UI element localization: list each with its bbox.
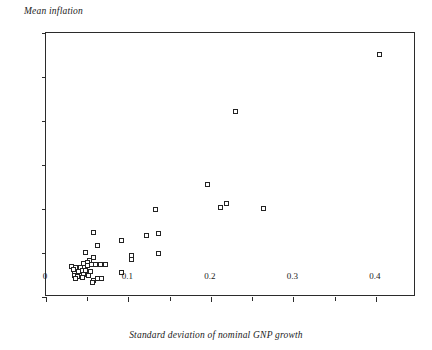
x-tick-label-0: 0 (30, 272, 60, 281)
y-tick-2 (42, 209, 46, 210)
data-point (98, 262, 103, 267)
data-point (233, 109, 238, 114)
y-axis-title: Mean inflation (24, 6, 83, 16)
x-minor-tick-2 (252, 297, 253, 301)
data-point (153, 207, 158, 212)
data-point (156, 251, 161, 256)
x-tick-1 (128, 297, 129, 302)
data-point (218, 205, 223, 210)
y-tick-3 (42, 165, 46, 166)
y-tick-5 (42, 77, 46, 78)
x-tick-2 (211, 297, 212, 302)
data-point (103, 262, 108, 267)
data-point (86, 273, 91, 278)
data-point (90, 280, 95, 285)
data-point (156, 231, 161, 236)
x-tick-label-3: 0.3 (277, 272, 307, 281)
data-point (377, 52, 382, 57)
x-minor-tick-1 (170, 297, 171, 301)
data-point (224, 201, 229, 206)
x-tick-label-1: 0.1 (112, 272, 142, 281)
data-point (83, 250, 88, 255)
x-minor-tick-3 (335, 297, 336, 301)
y-tick-6 (42, 33, 46, 34)
data-point (119, 238, 124, 243)
x-minor-tick-0 (87, 297, 88, 301)
data-point (80, 275, 85, 280)
data-point (261, 206, 266, 211)
x-tick-0 (46, 297, 47, 302)
data-point (144, 233, 149, 238)
x-tick-label-2: 0.2 (195, 272, 225, 281)
data-point (99, 276, 104, 281)
data-point (129, 257, 134, 262)
x-tick-4 (376, 297, 377, 302)
data-point (205, 182, 210, 187)
x-tick-3 (293, 297, 294, 302)
y-tick-1 (42, 253, 46, 254)
x-axis-title: Standard deviation of nominal GNP growth (0, 330, 432, 340)
y-tick-4 (42, 121, 46, 122)
plot-area (45, 32, 415, 296)
x-tick-label-4: 0.4 (360, 272, 390, 281)
data-point (95, 243, 100, 248)
data-point (91, 230, 96, 235)
data-point (73, 276, 78, 281)
scatter-chart-figure: Mean inflation 00.10.20.30.40.50.600.10.… (0, 0, 432, 350)
